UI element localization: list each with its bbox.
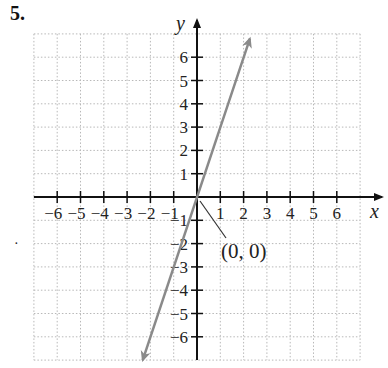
x-tick-label: 5 <box>309 204 318 223</box>
axes: xy <box>34 12 382 360</box>
y-tick-label: 3 <box>180 118 189 137</box>
x-tick-label: 2 <box>239 204 248 223</box>
x-tick-label: 4 <box>286 204 295 223</box>
origin-label: (0, 0) <box>221 239 267 263</box>
annotation: (0, 0) <box>200 201 267 263</box>
x-tick-label: −2 <box>137 204 155 223</box>
x-axis-label: x <box>369 200 379 222</box>
coordinate-plane: xy −6−5−4−3−2−1123456654321−1−2−3−4−5−6 … <box>0 0 388 368</box>
y-tick-label: −4 <box>170 281 189 300</box>
x-tick-label: 3 <box>263 204 272 223</box>
x-tick-label: −5 <box>67 204 85 223</box>
y-tick-label: 6 <box>180 48 189 67</box>
y-tick-label: 4 <box>180 95 189 114</box>
y-tick-label: 5 <box>180 72 189 91</box>
y-tick-label: −1 <box>170 211 188 230</box>
y-tick-label: 1 <box>180 165 189 184</box>
x-tick-label: 1 <box>216 204 225 223</box>
y-tick-label: −5 <box>170 305 188 324</box>
y-tick-label: 2 <box>180 141 189 160</box>
y-tick-label: −6 <box>170 328 188 347</box>
x-tick-label: −4 <box>91 204 110 223</box>
x-tick-label: −3 <box>114 204 132 223</box>
y-axis-label: y <box>174 12 185 35</box>
x-tick-label: −6 <box>44 204 62 223</box>
x-tick-label: 6 <box>333 204 342 223</box>
